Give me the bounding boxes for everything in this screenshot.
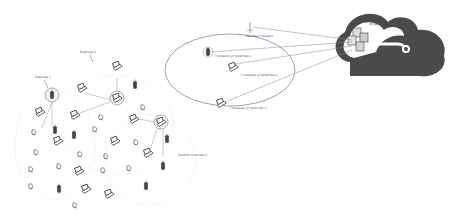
base-station-label: Базовая станция (246, 34, 273, 38)
cloud-server-icon: Облачный сервер (336, 14, 445, 77)
devices (29, 61, 169, 208)
cloud-label: Облачный сервер (369, 22, 397, 26)
cluster-label-3: Кластер 3 (191, 153, 207, 157)
cell-node-3: Головное устройство 3 (216, 98, 266, 110)
cell-node-2: Головное устройство 2 (228, 62, 277, 77)
svg-text:Головное устройство 1: Головное устройство 1 (215, 54, 252, 58)
cluster-label-1: Кластер 1 (35, 75, 51, 79)
cluster-head-1: Кластер 1 (35, 75, 59, 102)
cluster-head-2: Кластер 2 (80, 50, 124, 105)
cell-node-1: Головное устройство 1 (203, 47, 252, 59)
base-station-icon: Базовая станция (246, 22, 273, 38)
svg-text:Головное устройство 3: Головное устройство 3 (230, 106, 267, 110)
cluster-head-3: Кластер 3 (154, 115, 207, 157)
svg-text:Головное устройство 2: Головное устройство 2 (241, 73, 278, 77)
cluster-label-2: Кластер 2 (80, 50, 96, 54)
network-diagram: Облачный сервер Базовая станция Головное… (0, 0, 464, 219)
